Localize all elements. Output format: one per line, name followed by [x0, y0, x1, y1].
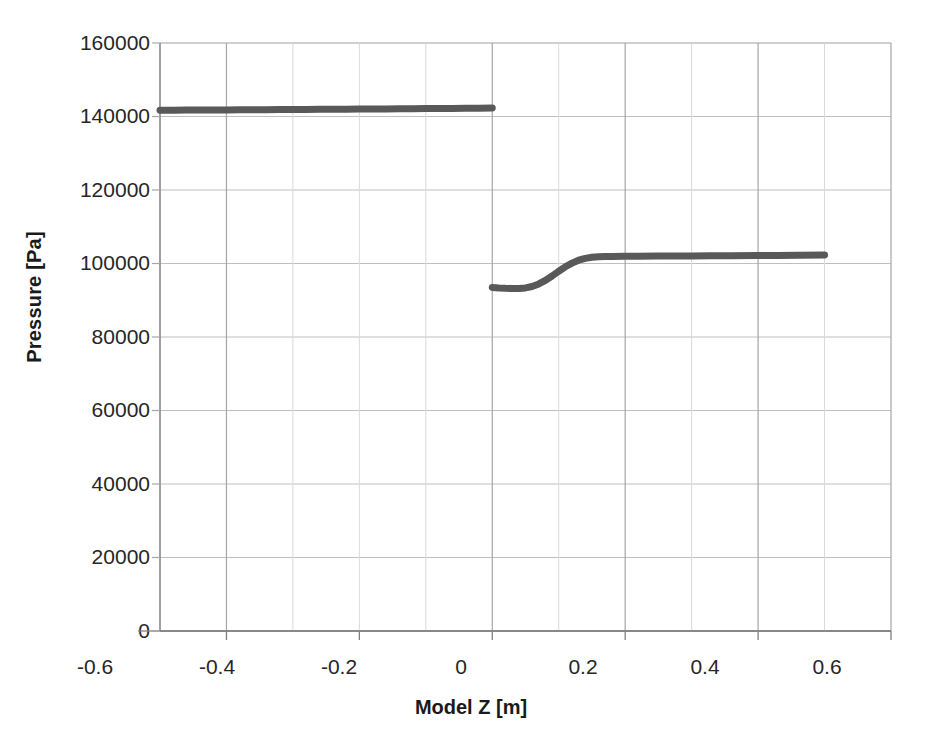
axis-lines	[138, 43, 891, 640]
pressure-vs-model-z-chart: Pressure [Pa] 160000 140000 120000 10000…	[0, 0, 942, 751]
series-line-downstream	[492, 255, 824, 288]
plot-area	[0, 0, 942, 751]
grid-lines	[160, 43, 891, 631]
series-line-upstream	[160, 108, 492, 110]
